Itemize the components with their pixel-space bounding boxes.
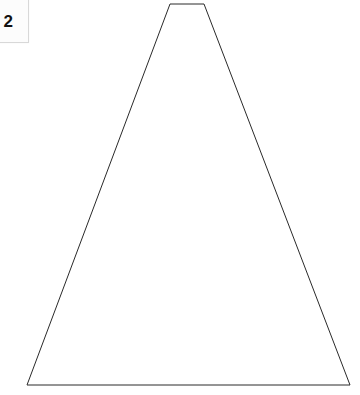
figure-number-card: 2 [0,0,29,43]
shape-svg [0,0,360,395]
figure-number-label: 2 [4,13,13,30]
figure-layer [0,0,360,395]
trapezoid-outline-shape [27,4,350,385]
drawing-canvas: 2 [0,0,360,395]
